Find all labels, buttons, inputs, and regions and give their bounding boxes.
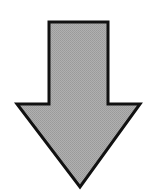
diagram-canvas xyxy=(0,0,147,195)
down-arrow-icon xyxy=(17,22,140,187)
